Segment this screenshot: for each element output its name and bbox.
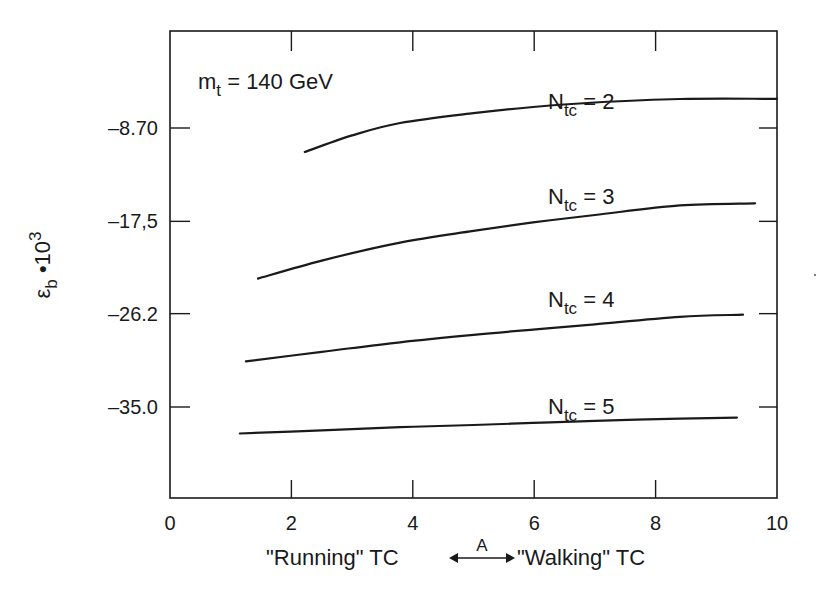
plot-frame (170, 31, 777, 498)
curve-label-ntc-4: Ntc = 4 (548, 287, 614, 318)
series-labels: Ntc = 2Ntc = 3Ntc = 4Ntc = 5 (548, 89, 614, 425)
y-tick-label: –8.70 (108, 117, 158, 139)
curve-ntc-4 (246, 315, 743, 362)
mass-annotation: mt = 140 GeV (198, 69, 333, 100)
x-tick-label: 10 (766, 512, 788, 534)
x-tick-label: 4 (407, 512, 418, 534)
x-axis-label-running: "Running" TC (266, 545, 399, 570)
x-axis-label-walking: "Walking" TC (517, 545, 645, 570)
curve-ntc-2 (305, 99, 777, 152)
y-axis-ticks: –8.70–17,5–26.2–35.0 (108, 117, 777, 418)
curve-ntc-3 (258, 203, 755, 278)
y-axis-label: εb •103 (26, 231, 61, 298)
curve-label-ntc-3: Ntc = 3 (548, 184, 614, 215)
curve-ntc-5 (240, 418, 737, 434)
x-axis-ticks: 0246810 (164, 31, 788, 534)
curve-label-ntc-2: Ntc = 2 (548, 89, 614, 120)
y-tick-label: –17,5 (108, 210, 158, 232)
x-tick-label: 0 (164, 512, 175, 534)
y-tick-label: –35.0 (108, 396, 158, 418)
series-curves (240, 99, 777, 434)
x-tick-label: 2 (286, 512, 297, 534)
x-tick-label: 6 (529, 512, 540, 534)
y-tick-label: –26.2 (108, 303, 158, 325)
chart: 0246810 –8.70–17,5–26.2–35.0 Ntc = 2Ntc … (0, 0, 824, 599)
x-tick-label: 8 (650, 512, 661, 534)
speck (814, 274, 816, 276)
arrow-label: A (476, 536, 488, 555)
